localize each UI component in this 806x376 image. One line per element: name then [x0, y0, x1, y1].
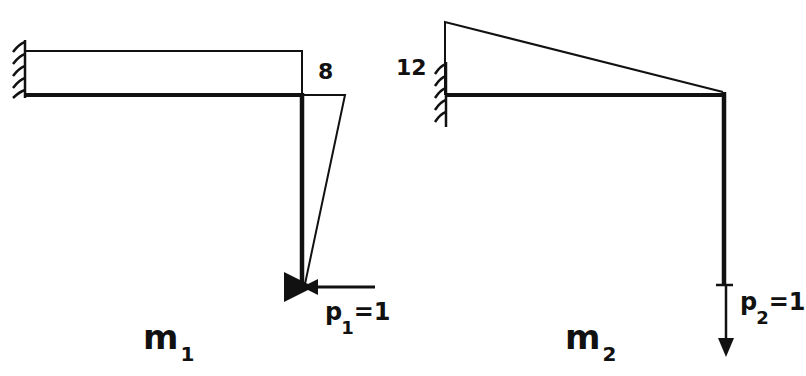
- load-equals: =1: [354, 298, 391, 326]
- load-label-m2: p2=1: [740, 290, 806, 314]
- title-subscript: 2: [602, 342, 616, 366]
- title-main: m: [565, 317, 600, 357]
- moment-value-m2: 12: [396, 57, 427, 79]
- load-equals: =1: [769, 288, 806, 316]
- load-subscript: 1: [341, 317, 354, 338]
- load-symbol: p: [325, 298, 342, 326]
- fixed-support-icon-m1: [13, 40, 25, 98]
- frame-m2: [435, 22, 734, 357]
- load-subscript: 2: [756, 307, 769, 328]
- moment-diagram-beam-m2: [445, 22, 723, 95]
- diagram-title-m1: m1: [143, 320, 194, 354]
- moment-diagram-beam-m1: [25, 51, 302, 95]
- moment-diagram-column-m1: [302, 95, 345, 284]
- title-subscript: 1: [180, 342, 194, 366]
- moment-value-m1: 8: [318, 61, 333, 83]
- title-main: m: [143, 317, 178, 357]
- diagram-title-m2: m2: [565, 320, 616, 354]
- load-symbol: p: [740, 288, 757, 316]
- load-label-m1: p1=1: [325, 300, 391, 324]
